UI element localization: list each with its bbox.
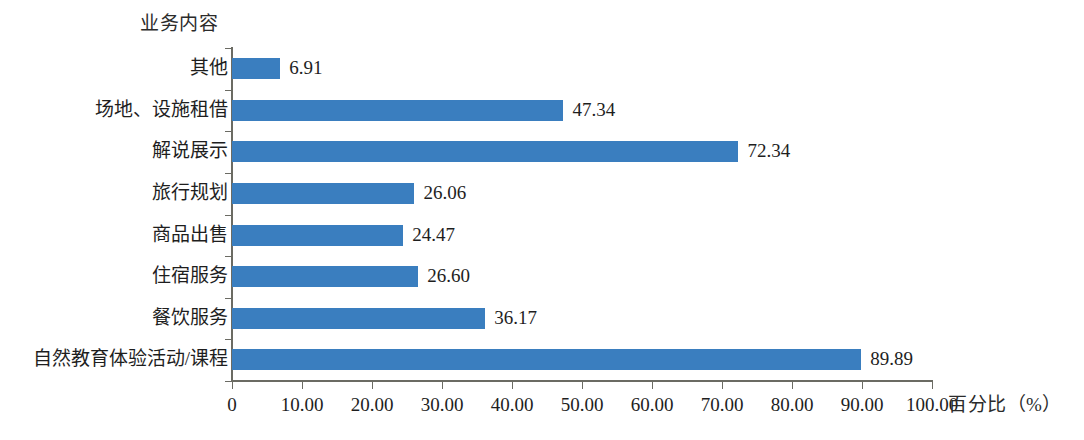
bar-chart: 业务内容 其他场地、设施租借解说展示旅行规划商品出售住宿服务餐饮服务自然教育体验… [0, 0, 1084, 440]
bar[interactable] [232, 266, 418, 287]
bar-value-label: 26.06 [423, 181, 466, 205]
x-axis-tick [932, 381, 933, 389]
x-axis-tick [722, 381, 723, 389]
x-axis-tick [792, 381, 793, 389]
bar-row[interactable]: 47.34 [232, 90, 932, 132]
plot-area: 6.9147.3472.3426.0624.4726.6036.1789.89 [232, 48, 932, 381]
category-label: 商品出售 [152, 223, 228, 247]
y-axis-tick [225, 48, 232, 49]
x-axis-tick-labels: 010.0020.0030.0040.0050.0060.0070.0080.0… [0, 392, 1084, 422]
category-axis-labels: 其他场地、设施租借解说展示旅行规划商品出售住宿服务餐饮服务自然教育体验活动/课程 [0, 48, 228, 381]
bar-row[interactable]: 26.60 [232, 256, 932, 298]
x-axis-tick [232, 381, 233, 389]
bar-value-label: 89.89 [870, 347, 913, 371]
bar[interactable] [232, 183, 414, 204]
bar-value-label: 47.34 [572, 98, 615, 122]
bar[interactable] [232, 225, 403, 246]
category-label: 餐饮服务 [152, 306, 228, 330]
y-axis-tick [225, 90, 232, 91]
y-axis-tick [225, 215, 232, 216]
bar[interactable] [232, 141, 738, 162]
bar-value-label: 26.60 [427, 264, 470, 288]
category-label: 住宿服务 [152, 264, 228, 288]
category-label: 自然教育体验活动/课程 [33, 347, 228, 371]
x-axis-label: 百分比（%） [948, 392, 1062, 418]
bar-row[interactable]: 26.06 [232, 173, 932, 215]
bar-row[interactable]: 36.17 [232, 298, 932, 340]
bar-value-label: 72.34 [747, 139, 790, 163]
bar-row[interactable]: 89.89 [232, 339, 932, 381]
y-axis-tick [225, 298, 232, 299]
y-axis-tick [225, 256, 232, 257]
y-axis-tick [225, 381, 232, 382]
category-label: 旅行规划 [152, 181, 228, 205]
bar[interactable] [232, 58, 280, 79]
y-axis-tick [225, 131, 232, 132]
x-axis-tick [442, 381, 443, 389]
x-axis-tick [372, 381, 373, 389]
bar-value-label: 6.91 [289, 56, 322, 80]
bar[interactable] [232, 308, 485, 329]
x-axis-tick [862, 381, 863, 389]
x-axis-tick [512, 381, 513, 389]
bar-row[interactable]: 24.47 [232, 215, 932, 257]
chart-title: 业务内容 [140, 12, 218, 36]
bar-row[interactable]: 6.91 [232, 48, 932, 90]
bar-row[interactable]: 72.34 [232, 131, 932, 173]
x-axis-tick [582, 381, 583, 389]
y-axis-tick [225, 339, 232, 340]
bar[interactable] [232, 349, 861, 370]
bar-value-label: 36.17 [494, 306, 537, 330]
x-axis-tick [302, 381, 303, 389]
category-label: 解说展示 [152, 139, 228, 163]
y-axis-tick [225, 173, 232, 174]
x-axis-tick [652, 381, 653, 389]
bar-value-label: 24.47 [412, 223, 455, 247]
bar[interactable] [232, 100, 563, 121]
category-label: 场地、设施租借 [95, 98, 228, 122]
category-label: 其他 [190, 56, 228, 80]
